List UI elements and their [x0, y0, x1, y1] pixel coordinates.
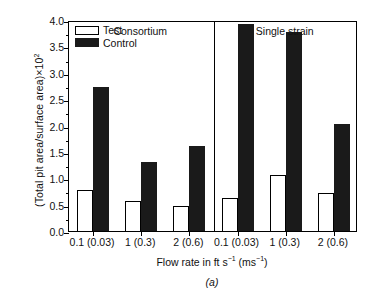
y-axis-tick-major — [64, 75, 69, 76]
bar-control-consortium-2 — [189, 146, 205, 231]
y-axis-tick-minor — [66, 141, 69, 142]
figure-caption: (a) — [206, 276, 219, 288]
x-axis-tick-label: 1 (0.3) — [270, 236, 300, 248]
legend-swatch-test-icon — [75, 26, 99, 35]
y-axis-tick-minor — [66, 193, 69, 194]
panel-divider — [214, 22, 215, 231]
legend-swatch-control-icon — [75, 38, 99, 47]
y-axis-tick-major — [64, 154, 69, 155]
y-axis-tick-label: 1.0 — [49, 173, 64, 185]
bar-control-single-strain-0 — [238, 24, 254, 231]
bar-test-single-strain-2 — [318, 193, 334, 232]
x-axis-title-sup2: −1 — [256, 255, 264, 262]
y-axis-tick-minor — [66, 62, 69, 63]
bar-test-single-strain-1 — [270, 175, 286, 231]
y-axis-tick-label: 0.5 — [49, 200, 64, 212]
y-axis-tick-labels: 0.00.51.01.52.02.53.03.54.0 — [0, 0, 64, 306]
x-axis-tick-label: 0.1 (0.03) — [214, 236, 259, 248]
y-axis-tick-label: 2.5 — [49, 94, 64, 106]
y-axis-tick-label: 2.0 — [49, 121, 64, 133]
y-axis-tick-label: 3.5 — [49, 41, 64, 53]
y-axis-tick-major — [64, 233, 69, 234]
bar-control-single-strain-1 — [286, 32, 302, 231]
legend-label-control: Control — [103, 37, 137, 50]
group-title-single-strain: Single strain — [256, 25, 314, 37]
y-axis-tick-major — [64, 180, 69, 181]
bar-test-consortium-1 — [125, 201, 141, 231]
x-axis-title-post: ) — [264, 256, 268, 268]
y-axis-tick-label: 0.0 — [49, 226, 64, 238]
x-axis-title-sup1: −1 — [228, 255, 236, 262]
y-axis-tick-label: 3.0 — [49, 68, 64, 80]
x-axis-tick-label: 1 (0.3) — [125, 236, 155, 248]
y-axis-tick-major — [64, 22, 69, 23]
y-axis-tick-minor — [66, 220, 69, 221]
y-axis-tick-minor — [66, 167, 69, 168]
plot-area — [68, 21, 357, 232]
y-axis-tick-minor — [66, 114, 69, 115]
y-axis-tick-major — [64, 101, 69, 102]
y-axis-tick-minor — [66, 88, 69, 89]
bar-control-consortium-1 — [141, 162, 157, 231]
y-axis-tick-minor — [66, 35, 69, 36]
bar-control-single-strain-2 — [334, 124, 350, 231]
x-axis-title: Flow rate in ft s−1 (ms−1) — [156, 255, 267, 268]
bar-test-single-strain-0 — [222, 198, 238, 231]
y-axis-tick-label: 4.0 — [49, 15, 64, 27]
x-axis-title-pre: Flow rate in ft s — [156, 256, 227, 268]
bar-test-consortium-2 — [173, 206, 189, 231]
x-axis-tick-label: 0.1 (0.03) — [70, 236, 115, 248]
y-axis-tick-major — [64, 128, 69, 129]
group-title-consortium: Consortium — [113, 25, 167, 37]
x-axis-title-mid: (ms — [236, 256, 256, 268]
legend-item-control: Control — [75, 37, 137, 50]
y-axis-tick-major — [64, 207, 69, 208]
x-axis-tick-label: 2 (0.6) — [173, 236, 203, 248]
x-axis-tick-label: 2 (0.6) — [318, 236, 348, 248]
bar-test-consortium-0 — [77, 190, 93, 231]
bar-control-consortium-0 — [93, 87, 109, 231]
y-axis-tick-major — [64, 48, 69, 49]
y-axis-tick-label: 1.5 — [49, 147, 64, 159]
figure-panel-a: (Total pit area/surface area)×102 0.00.5… — [0, 0, 379, 306]
